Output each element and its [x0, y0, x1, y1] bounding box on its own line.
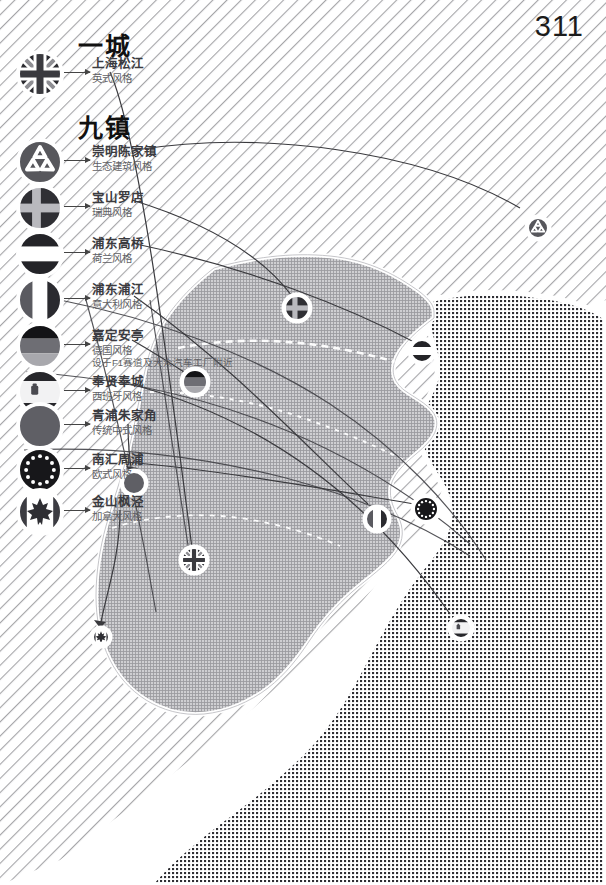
europe-stars-icon [18, 448, 62, 492]
legend-leader-line [64, 468, 90, 469]
europe-stars-icon [413, 496, 439, 522]
legend-leader-line [64, 424, 90, 425]
legend-style: 英式风格 [92, 72, 242, 85]
marker-zhoupu[interactable] [411, 494, 442, 525]
italy-flag-icon [365, 507, 389, 531]
recycle-eco-icon [527, 217, 549, 239]
legend-text: 金山枫泾 加拿大风格 [92, 494, 242, 523]
legend-style: 瑞典风格 [92, 206, 242, 219]
legend-text: 奉贤奉城 西班牙风格 [92, 374, 242, 403]
legend-text: 宝山罗店 瑞典风格 [92, 190, 242, 219]
legend-item-netherlands-flag[interactable]: 浦东高桥 荷兰风格 [18, 232, 233, 278]
legend-text: 浦东高桥 荷兰风格 [92, 236, 242, 265]
marker-fengjing[interactable] [90, 626, 113, 649]
legend-text: 上海松江 英式风格 [92, 56, 242, 85]
legend-item-sweden-flag[interactable]: 宝山罗店 瑞典风格 [18, 186, 233, 232]
legend-leader-line [64, 298, 90, 299]
legend-leader-line [64, 510, 90, 511]
canada-maple-leaf-icon [92, 628, 110, 646]
heading-nine-towns: 九镇 [78, 108, 132, 144]
legend-style: 加拿大风格 [92, 510, 242, 523]
legend-style: 意大利风格 [92, 298, 242, 311]
page-number: 311 [535, 10, 584, 43]
legend-leader-line [64, 252, 90, 253]
netherlands-flag-icon [410, 339, 434, 363]
legend-name: 奉贤奉城 [92, 374, 242, 390]
marker-pujiang[interactable] [363, 505, 392, 534]
legend-item-italy-flag[interactable]: 浦东浦江 意大利风格 [18, 278, 233, 324]
sweden-flag-icon [284, 295, 310, 321]
legend-text: 嘉定安亭 德国风格 设于F1赛道及大众汽车工厂附近 [92, 328, 242, 370]
legend-style: 西班牙风格 [92, 390, 242, 403]
legend-name: 南汇周浦 [92, 452, 242, 468]
marker-chongming[interactable] [525, 215, 552, 242]
legend-leader-line [64, 160, 90, 161]
legend-leader-line [64, 206, 90, 207]
legend-name: 青浦朱家角 [92, 408, 242, 424]
germany-flag-icon [18, 324, 62, 368]
legend-leader-line [64, 344, 90, 345]
legend-style: 传统中式风格 [92, 424, 242, 437]
legend-style: 德国风格 [92, 344, 242, 357]
legend-name: 宝山罗店 [92, 190, 242, 206]
legend-item-chinese-traditional[interactable]: 青浦朱家角 传统中式风格 [18, 404, 233, 450]
legend-leader-line [64, 390, 90, 391]
legend-item-europe-stars[interactable]: 南汇周浦 欧式风格 [18, 448, 233, 494]
legend-name: 崇明陈家镇 [92, 144, 242, 160]
legend-name: 浦东高桥 [92, 236, 242, 252]
legend-text: 南汇周浦 欧式风格 [92, 452, 242, 481]
legend-style: 生态建筑风格 [92, 160, 242, 173]
legend-name: 金山枫泾 [92, 494, 242, 510]
legend-item-germany-flag[interactable]: 嘉定安亭 德国风格 设于F1赛道及大众汽车工厂附近 [18, 324, 233, 370]
legend-leader-line [64, 72, 90, 73]
legend-note: 设于F1赛道及大众汽车工厂附近 [92, 357, 242, 369]
legend-name: 浦东浦江 [92, 282, 242, 298]
legend-item-songjiang[interactable]: 上海松江 英式风格 [18, 52, 233, 98]
legend-panel: 一城 上海松江 英式风格 [0, 0, 230, 560]
legend-style: 欧式风格 [92, 468, 242, 481]
marker-gaoqiao[interactable] [408, 337, 437, 366]
legend-item-recycle-eco[interactable]: 崇明陈家镇 生态建筑风格 [18, 140, 233, 186]
canada-maple-leaf-icon [18, 490, 62, 534]
marker-baoshan[interactable] [282, 293, 313, 324]
marker-fengcheng[interactable] [448, 615, 475, 642]
legend-text: 浦东浦江 意大利风格 [92, 282, 242, 311]
legend-text: 崇明陈家镇 生态建筑风格 [92, 144, 242, 173]
recycle-eco-icon [18, 140, 62, 184]
union-jack-flag-icon [18, 52, 62, 96]
legend-name: 嘉定安亭 [92, 328, 242, 344]
legend-name: 上海松江 [92, 56, 242, 72]
infographic-page: 311 一城 上海松江 [0, 0, 606, 885]
italy-flag-icon [18, 278, 62, 322]
legend-text: 青浦朱家角 传统中式风格 [92, 408, 242, 437]
legend-item-canada-maple-leaf[interactable]: 金山枫泾 加拿大风格 [18, 490, 233, 536]
spain-flag-icon [450, 617, 472, 639]
chinese-traditional-icon [18, 404, 62, 448]
netherlands-flag-icon [18, 232, 62, 276]
sweden-flag-icon [18, 186, 62, 230]
legend-style: 荷兰风格 [92, 252, 242, 265]
